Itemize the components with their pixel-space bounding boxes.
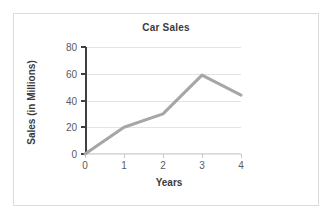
y-tick-label: 0 — [71, 149, 77, 160]
x-tick-label: 1 — [121, 160, 127, 171]
x-tick-label: 3 — [199, 160, 205, 171]
x-axis-title: Years — [54, 177, 284, 188]
series-polyline — [85, 75, 241, 154]
x-tick-mark — [163, 154, 164, 158]
x-tick-mark — [241, 154, 242, 158]
x-tick-label: 0 — [82, 160, 88, 171]
series-line-car-sales — [85, 47, 241, 154]
y-tick-label: 80 — [66, 42, 77, 53]
y-axis-title: Sales (in Millions) — [26, 60, 37, 144]
y-tick-label: 20 — [66, 122, 77, 133]
chart-figure: Car Sales Sales (in Millions) Years 0204… — [13, 13, 319, 206]
x-tick-label: 2 — [160, 160, 166, 171]
y-tick-label: 60 — [66, 68, 77, 79]
y-axis-title-wrapper: Sales (in Millions) — [22, 42, 40, 162]
plot-area: 020406080 01234 — [85, 47, 241, 154]
chart-title: Car Sales — [14, 22, 318, 33]
y-tick-label: 40 — [66, 95, 77, 106]
x-tick-mark — [124, 154, 125, 158]
x-tick-mark — [202, 154, 203, 158]
x-tick-label: 4 — [238, 160, 244, 171]
